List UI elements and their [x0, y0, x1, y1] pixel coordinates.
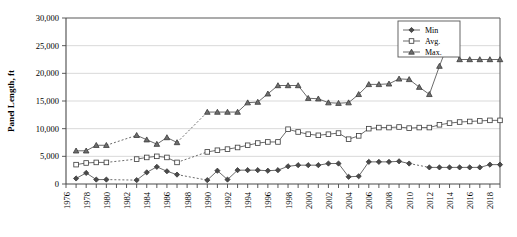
data-point-min — [407, 161, 412, 166]
x-tick-label: 2018 — [485, 192, 495, 209]
x-tick-label: 2000 — [304, 192, 314, 209]
series-segment-avg — [106, 159, 136, 162]
legend-marker-avg — [409, 39, 414, 44]
y-tick-label: 25,000 — [36, 41, 59, 51]
data-point-avg — [255, 141, 260, 146]
data-point-min — [164, 169, 169, 174]
data-point-avg — [165, 155, 170, 160]
series-segment-min — [339, 164, 349, 177]
data-point-avg — [245, 143, 250, 148]
data-point-min — [326, 161, 331, 166]
data-point-min — [497, 162, 502, 167]
data-point-max — [144, 137, 150, 142]
data-point-avg — [266, 140, 271, 145]
data-point-avg — [104, 160, 109, 165]
data-point-avg — [215, 148, 220, 153]
x-tick-label: 1994 — [243, 191, 253, 209]
series-segment-max — [177, 112, 207, 142]
y-tick-label: 20,000 — [36, 68, 59, 78]
data-point-min — [154, 164, 159, 169]
x-tick-label: 2002 — [324, 192, 334, 209]
x-tick-label: 1978 — [82, 192, 92, 209]
data-point-avg — [144, 155, 149, 160]
legend-label-max: Max. — [425, 48, 442, 57]
data-point-avg — [134, 157, 139, 162]
legend-label-avg: Avg. — [425, 37, 440, 46]
data-point-min — [265, 168, 270, 173]
data-point-min — [477, 165, 482, 170]
data-point-avg — [387, 125, 392, 130]
data-point-avg — [366, 126, 371, 131]
x-tick-label: 1988 — [183, 192, 193, 209]
series-segment-min — [359, 162, 369, 176]
data-point-max — [437, 63, 443, 68]
series-segment-avg — [177, 152, 207, 163]
data-point-avg — [74, 162, 79, 167]
data-point-avg — [175, 160, 180, 165]
data-point-min — [396, 159, 401, 164]
x-tick-label: 1986 — [162, 192, 172, 209]
series-segment-max — [429, 66, 439, 94]
y-tick-label: 30,000 — [36, 13, 59, 23]
data-point-max — [154, 141, 160, 146]
data-point-min — [487, 162, 492, 167]
x-tick-label: 2012 — [425, 192, 435, 209]
y-tick-label: 15,000 — [36, 96, 59, 106]
data-point-avg — [326, 132, 331, 137]
data-point-avg — [306, 132, 311, 137]
y-tick-label: 0 — [55, 179, 59, 189]
x-tick-label: 2004 — [344, 191, 354, 209]
data-point-avg — [94, 160, 99, 165]
panel-length-line-chart: 05,00010,00015,00020,00025,00030,0001976… — [0, 0, 517, 237]
data-point-avg — [235, 145, 240, 150]
chart-container: 05,00010,00015,00020,00025,00030,0001976… — [0, 0, 517, 237]
data-point-min — [104, 177, 109, 182]
data-point-avg — [417, 125, 422, 130]
data-point-min — [467, 165, 472, 170]
data-point-min — [376, 159, 381, 164]
data-point-min — [174, 172, 179, 177]
data-point-min — [316, 163, 321, 168]
data-point-min — [245, 168, 250, 173]
x-tick-label: 2010 — [405, 192, 415, 209]
data-point-avg — [356, 134, 361, 139]
x-tick-label: 1996 — [263, 192, 273, 209]
series-segment-max — [106, 135, 136, 145]
data-point-avg — [286, 127, 291, 132]
data-point-avg — [447, 121, 452, 126]
data-point-avg — [84, 161, 89, 166]
data-point-avg — [316, 133, 321, 138]
x-tick-label: 1992 — [223, 192, 233, 209]
data-point-avg — [498, 118, 503, 123]
x-tick-label: 1976 — [62, 192, 72, 209]
data-point-min — [94, 177, 99, 182]
data-point-min — [447, 165, 452, 170]
data-point-min — [275, 168, 280, 173]
x-tick-label: 2016 — [465, 192, 475, 209]
data-point-avg — [155, 154, 160, 159]
data-point-min — [437, 165, 442, 170]
data-point-avg — [437, 122, 442, 127]
x-tick-label: 2014 — [445, 191, 455, 209]
data-point-min — [285, 164, 290, 169]
x-tick-label: 2006 — [364, 192, 374, 209]
x-tick-label: 1982 — [122, 192, 132, 209]
y-axis-title: Panel Length, ft — [6, 70, 16, 132]
data-point-avg — [397, 125, 402, 130]
series-segment-min — [177, 175, 207, 181]
legend-label-min: Min — [425, 26, 438, 35]
x-tick-label: 2008 — [384, 192, 394, 209]
data-point-max — [134, 133, 140, 138]
data-point-avg — [427, 125, 432, 130]
data-point-min — [84, 170, 89, 175]
x-tick-label: 1984 — [142, 191, 152, 209]
data-point-avg — [296, 130, 301, 135]
data-point-avg — [478, 119, 483, 124]
data-point-min — [296, 163, 301, 168]
data-point-avg — [457, 120, 462, 125]
y-tick-label: 10,000 — [36, 124, 59, 134]
series-segment-min — [106, 180, 136, 181]
data-point-avg — [407, 126, 412, 131]
data-point-avg — [276, 140, 281, 145]
data-point-avg — [488, 118, 493, 123]
